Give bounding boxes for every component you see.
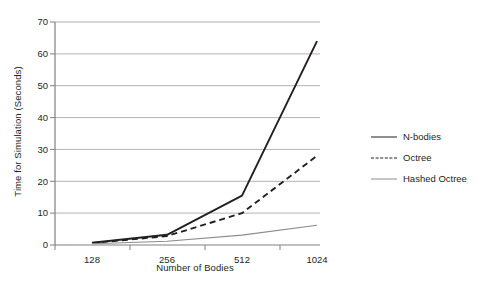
axis-lines <box>55 22 320 245</box>
series-line-n-bodies <box>92 41 317 243</box>
legend-label-octree: Octree <box>403 152 432 163</box>
legend-item-octree: Octree <box>371 147 482 168</box>
y-axis-ticks <box>50 22 55 245</box>
legend-line-icon-n-bodies <box>371 132 397 142</box>
legend-line-icon-octree <box>371 153 397 163</box>
legend-label-hashed-octree: Hashed Octree <box>403 173 467 184</box>
legend-item-n-bodies: N-bodies <box>371 126 482 147</box>
legend-item-hashed-octree: Hashed Octree <box>371 168 482 189</box>
legend-label-n-bodies: N-bodies <box>403 131 441 142</box>
legend: N-bodies Octree Hashed Octree <box>371 126 482 189</box>
x-axis-ticks <box>55 245 280 250</box>
chart-container: Time for Simulation (Seconds) Number of … <box>0 0 482 285</box>
series-line-hashed-octree <box>92 225 317 243</box>
legend-line-icon-hashed-octree <box>371 174 397 184</box>
